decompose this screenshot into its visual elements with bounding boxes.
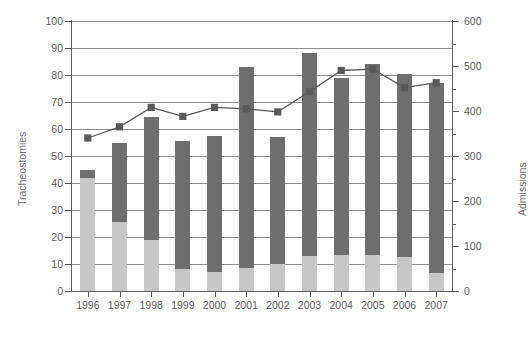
x-tick — [310, 291, 311, 297]
y-tick-label-left: 60 — [33, 124, 63, 134]
x-tick — [405, 291, 406, 297]
y-tick-label-left: 0 — [33, 286, 63, 296]
y-tick-right-minor — [452, 179, 456, 180]
y-tick-label-right: 500 — [464, 61, 504, 71]
y-tick-right — [452, 246, 459, 247]
y-tick-right — [452, 201, 459, 202]
line-marker — [211, 104, 218, 111]
y-tick-right-minor — [452, 224, 456, 225]
x-tick-label: 2007 — [414, 300, 458, 311]
line-marker — [369, 66, 376, 73]
y-tick-right-minor — [452, 134, 456, 135]
x-tick — [215, 291, 216, 297]
y-tick-left — [65, 237, 72, 238]
y-tick-label-left: 80 — [33, 70, 63, 80]
line-marker — [306, 88, 313, 95]
y-tick-left — [65, 48, 72, 49]
y-tick-label-right: 600 — [464, 16, 504, 26]
y-tick-label-right: 400 — [464, 106, 504, 116]
line-marker — [243, 105, 250, 112]
line-marker — [401, 84, 408, 91]
x-tick — [151, 291, 152, 297]
x-tick — [120, 291, 121, 297]
y-tick-label-right: 200 — [464, 196, 504, 206]
y-tick-left — [65, 264, 72, 265]
y-axis-title-left: Tracheostomies — [16, 132, 28, 206]
y-tick-label-left: 10 — [33, 259, 63, 269]
y-tick-label-left: 100 — [33, 16, 63, 26]
x-tick — [373, 291, 374, 297]
x-axis-line — [71, 291, 454, 292]
y-tick-right — [452, 156, 459, 157]
y-tick-label-left: 30 — [33, 205, 63, 215]
line-marker — [179, 113, 186, 120]
line-marker — [116, 123, 123, 130]
x-tick — [183, 291, 184, 297]
y-tick-left — [65, 291, 72, 292]
y-tick-right — [452, 66, 459, 67]
y-tick-left — [65, 102, 72, 103]
line-marker — [274, 108, 281, 115]
chart-container: 0102030405060708090100010020030040050060… — [0, 0, 531, 337]
x-tick — [88, 291, 89, 297]
y-tick-right — [452, 21, 459, 22]
y-axis-title-right: Admissions — [516, 162, 528, 216]
y-tick-right — [452, 291, 459, 292]
y-tick-label-left: 40 — [33, 178, 63, 188]
y-tick-left — [65, 75, 72, 76]
y-tick-left — [65, 183, 72, 184]
y-tick-right-minor — [452, 269, 456, 270]
x-tick — [278, 291, 279, 297]
y-tick-label-left: 20 — [33, 232, 63, 242]
x-tick — [436, 291, 437, 297]
line-marker — [338, 67, 345, 74]
y-tick-right-minor — [452, 89, 456, 90]
x-tick — [246, 291, 247, 297]
x-tick — [341, 291, 342, 297]
y-tick-label-left: 50 — [33, 151, 63, 161]
admissions-line-series — [72, 21, 452, 291]
y-tick-label-right: 0 — [464, 286, 504, 296]
line-marker — [148, 104, 155, 111]
y-tick-right — [452, 111, 459, 112]
y-tick-left — [65, 210, 72, 211]
y-tick-left — [65, 156, 72, 157]
y-tick-label-left: 70 — [33, 97, 63, 107]
y-tick-label-left: 90 — [33, 43, 63, 53]
line-marker — [84, 134, 91, 141]
y-tick-label-right: 300 — [464, 151, 504, 161]
y-tick-left — [65, 21, 72, 22]
line-marker — [433, 79, 440, 86]
y-tick-right-minor — [452, 44, 456, 45]
admissions-line — [88, 69, 436, 138]
y-tick-label-right: 100 — [464, 241, 504, 251]
y-tick-left — [65, 129, 72, 130]
